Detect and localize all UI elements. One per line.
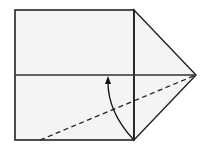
origami-diagram: [0, 0, 207, 150]
